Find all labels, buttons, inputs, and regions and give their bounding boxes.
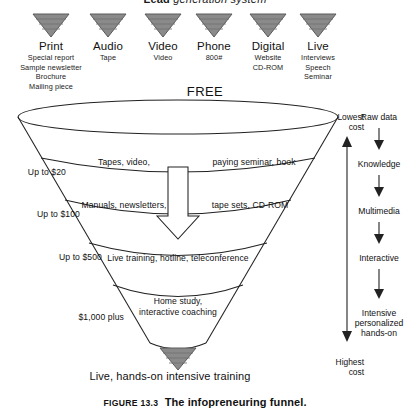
value-ladder: Raw data Knowledge Multimedia Interactiv… [348, 112, 410, 412]
header-title-bold: Lead [143, 0, 169, 5]
down-arrow-icon [348, 173, 410, 199]
channel-item: Seminar [279, 72, 357, 82]
channel-item: Speech [279, 63, 357, 73]
band-1-text-left: Tapes, video, [88, 157, 160, 168]
band-4-text-line2: interactive coaching [108, 307, 248, 318]
channel-item: Interviews [279, 53, 357, 63]
price-label-tier-2: Up to $100 [8, 209, 80, 219]
ladder-step-multimedia: Multimedia [348, 206, 410, 216]
funnel-output-caption: Live, hands-on intensive training [0, 370, 340, 382]
down-arrow-icon [348, 220, 410, 246]
band-4-text-line1: Home study, [108, 296, 248, 307]
band-1-text-right: paying seminar, book [196, 157, 312, 168]
ladder-step-raw-data: Raw data [348, 112, 410, 122]
price-label-tier-1: Up to $20 [0, 167, 66, 177]
band-2-text-right: tape sets, CD-ROM [198, 200, 302, 211]
ladder-step-knowledge: Knowledge [348, 159, 410, 169]
ladder-step-interactive: Interactive [348, 253, 410, 263]
figure-number: FIGURE 13.3 [103, 398, 158, 408]
channel-name: Live [279, 39, 357, 53]
page-running-header: Lead generation system [0, 0, 410, 5]
band-3-text: Live training, hotline, teleconference [74, 253, 282, 264]
ladder-step-intensive-line1: Intensive [362, 308, 396, 318]
band-2-text-left: Manuals, newsletters, [76, 200, 172, 211]
channel-live: Live Interviews Speech Seminar [279, 12, 357, 82]
channel-item: Brochure [12, 72, 90, 82]
figure-infopreneuring-funnel: Lead generation system Print Special rep… [0, 0, 410, 416]
down-arrow-icon [348, 126, 410, 152]
down-triangle-icon [279, 12, 357, 38]
header-title-italic: generation system [170, 0, 267, 5]
ladder-step-intensive-line3: hands-on [361, 328, 397, 338]
down-arrow-icon [348, 267, 410, 301]
ladder-step-intensive: Intensive personalized hands-on [348, 308, 410, 338]
figure-title: The infopreneuring funnel. [165, 396, 307, 408]
ladder-step-intensive-line2: personalized [355, 318, 404, 328]
free-tier-label: FREE [0, 84, 410, 99]
channel-item: Sample newsletter [12, 63, 90, 73]
